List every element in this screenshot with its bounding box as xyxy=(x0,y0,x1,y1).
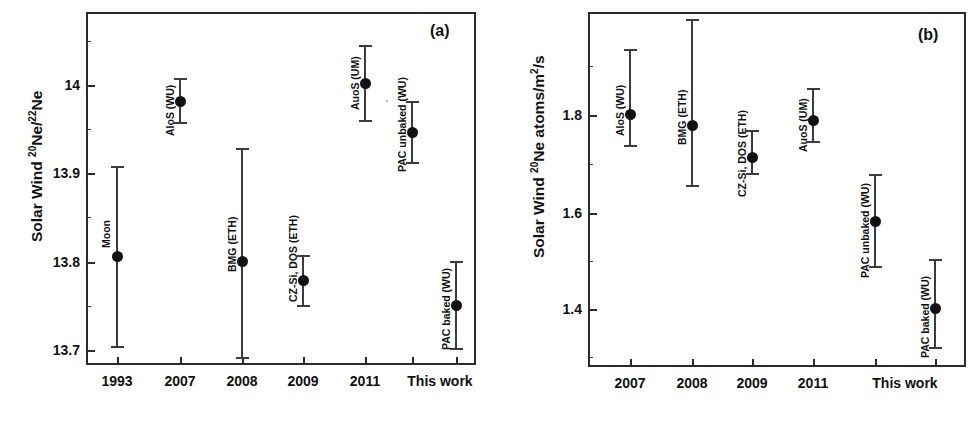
error-bar-cap-bottom xyxy=(111,346,124,348)
series-label-czsi-dos-eth-a: CZ-Si, DOS (ETH) xyxy=(287,215,299,302)
xtick-mark-b-0 xyxy=(630,359,632,367)
ytick-minor-a-1 xyxy=(86,217,91,218)
series-label-czsi-dos-eth-b: CZ-Si, DOS (ETH) xyxy=(736,110,748,197)
error-bar-cap-top xyxy=(111,166,124,168)
xtick-mark-a-6 xyxy=(456,357,458,365)
ytick-mark-a-2 xyxy=(86,262,95,264)
ytick-label-a-2: 13.8 xyxy=(30,254,80,270)
y-axis-title-b-sup1: 20 xyxy=(529,162,540,173)
error-bar-line xyxy=(629,49,631,147)
series-label-pac-baked-b: PAC baked (WU) xyxy=(919,276,931,358)
xtick-mark-a-3 xyxy=(303,357,305,365)
series-label-pac-baked-a: PAC baked (WU) xyxy=(440,268,452,350)
error-bar-cap-top xyxy=(929,259,942,261)
series-label-alos-wu-b: AloS (WU) xyxy=(614,85,626,136)
data-marker xyxy=(407,127,418,138)
error-bar-cap-top xyxy=(174,78,187,80)
xtick-mark-a-0 xyxy=(117,357,119,365)
data-marker xyxy=(625,109,636,120)
xtick-mark-b-3 xyxy=(813,359,815,367)
data-marker xyxy=(451,300,462,311)
ytick-minor-a-3 xyxy=(86,41,91,42)
xtick-label-a-5: This work xyxy=(394,373,486,389)
series-label-pac-unbaked-a: PAC unbaked (WU) xyxy=(396,77,408,172)
error-bar-cap-top xyxy=(359,45,372,47)
plot-frame-a xyxy=(86,12,476,365)
error-bar-cap-top xyxy=(686,19,699,21)
data-marker xyxy=(747,152,758,163)
data-point-moon[interactable] xyxy=(111,166,123,348)
xtick-mark-b-1 xyxy=(692,359,694,367)
ytick-label-a-1: 13.9 xyxy=(30,165,80,181)
ytick-minor-b-0 xyxy=(588,66,593,67)
ytick-label-b-0: 1.8 xyxy=(538,107,582,123)
scan-speck xyxy=(386,100,388,102)
ytick-mark-b-0 xyxy=(588,115,597,117)
ytick-minor-a-0 xyxy=(86,129,91,130)
figure-canvas: (a) Solar Wind 20Ne/22Ne 14 13.9 13.8 13… xyxy=(0,0,972,431)
error-bar-cap-top xyxy=(807,88,820,90)
ytick-minor-b-1 xyxy=(588,164,593,165)
data-marker xyxy=(112,251,123,262)
plot-frame-b xyxy=(588,12,966,367)
series-label-auos-um-b: AuoS (UM) xyxy=(797,98,809,152)
series-label-auos-um-a: AuoS (UM) xyxy=(349,56,361,110)
series-label-bmg-eth-a: BMG (ETH) xyxy=(226,217,238,272)
series-label-moon: Moon xyxy=(100,220,112,248)
xtick-label-b-3: 2011 xyxy=(773,375,853,391)
xtick-mark-a-1 xyxy=(180,357,182,365)
error-bar-cap-bottom xyxy=(359,120,372,122)
chart-panel-a: (a) Solar Wind 20Ne/22Ne 14 13.9 13.8 13… xyxy=(0,0,490,431)
error-bar-cap-top xyxy=(236,148,249,150)
y-axis-title-b-sup2: 2 xyxy=(529,68,540,74)
data-marker xyxy=(687,120,698,131)
ytick-label-b-2: 1.4 xyxy=(538,301,582,317)
ytick-minor-b-2 xyxy=(588,261,593,262)
panel-label-a: (a) xyxy=(430,22,450,40)
y-axis-title-a-sup2: 22 xyxy=(27,111,38,122)
xtick-mark-a-4 xyxy=(365,357,367,365)
error-bar-cap-top xyxy=(624,49,637,51)
xtick-mark-b-4 xyxy=(875,359,877,367)
error-bar-cap-bottom xyxy=(624,145,637,147)
data-marker xyxy=(930,303,941,314)
xtick-mark-b-5 xyxy=(935,359,937,367)
data-marker xyxy=(175,96,186,107)
data-marker xyxy=(237,256,248,267)
xtick-label-b-4: This work xyxy=(859,375,951,391)
xtick-mark-b-2 xyxy=(752,359,754,367)
ytick-mark-a-3 xyxy=(86,350,95,352)
ytick-minor-a-2 xyxy=(86,306,91,307)
error-bar-cap-top xyxy=(869,174,882,176)
series-label-pac-unbaked-b: PAC unbaked (WU) xyxy=(859,183,871,278)
ytick-mark-b-2 xyxy=(588,309,597,311)
data-marker xyxy=(298,275,309,286)
ytick-label-a-0: 14 xyxy=(40,77,80,93)
error-bar-line xyxy=(691,19,693,187)
series-label-alos-wu-a: AloS (WU) xyxy=(164,85,176,136)
ytick-mark-a-1 xyxy=(86,173,95,175)
xtick-mark-a-5 xyxy=(412,357,414,365)
ytick-label-b-1: 1.6 xyxy=(538,205,582,221)
error-bar-cap-bottom xyxy=(686,185,699,187)
y-axis-title-a-sup1: 20 xyxy=(27,146,38,157)
xtick-label-a-4: 2011 xyxy=(325,373,405,389)
y-axis-title-a-tail: Ne xyxy=(28,91,45,111)
ytick-mark-b-1 xyxy=(588,213,597,215)
data-marker xyxy=(808,115,819,126)
ytick-mark-a-0 xyxy=(86,85,95,87)
series-label-bmg-eth-b: BMG (ETH) xyxy=(676,90,688,145)
ytick-label-a-3: 13.7 xyxy=(30,342,80,358)
error-bar-cap-top xyxy=(450,261,463,263)
y-axis-title-b: Solar Wind 20Ne atoms/m2/s xyxy=(530,55,548,258)
data-marker xyxy=(360,78,371,89)
data-marker xyxy=(870,216,881,227)
error-bar-cap-bottom xyxy=(236,357,249,359)
ytick-minor-b-3 xyxy=(588,357,593,358)
error-bar-cap-bottom xyxy=(297,305,310,307)
error-bar-line xyxy=(241,148,243,359)
y-axis-title-b-tail: /s xyxy=(530,55,547,68)
chart-panel-b: (b) Solar Wind 20Ne atoms/m2/s 1.8 1.6 1… xyxy=(490,0,972,431)
y-axis-title-a-mid: Ne/ xyxy=(28,122,45,146)
panel-label-b: (b) xyxy=(918,26,938,44)
